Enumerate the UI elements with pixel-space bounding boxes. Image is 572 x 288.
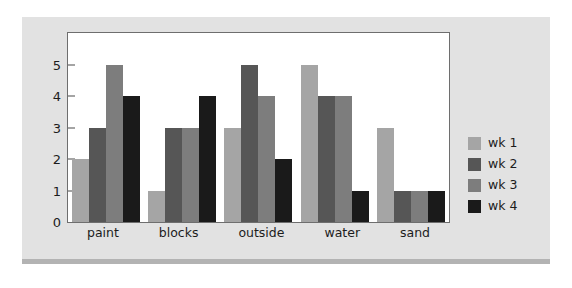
bar xyxy=(224,128,241,223)
bar xyxy=(182,128,199,223)
bar-group xyxy=(224,33,292,222)
bar-group xyxy=(301,33,369,222)
bar xyxy=(318,96,335,222)
bar xyxy=(106,65,123,223)
legend-label: wk 3 xyxy=(488,179,517,192)
bar xyxy=(89,128,106,223)
bar xyxy=(411,191,428,223)
legend-swatch-icon xyxy=(468,137,481,150)
bar-group xyxy=(72,33,140,222)
y-axis-tick-label: 5 xyxy=(53,58,61,71)
bar xyxy=(258,96,275,222)
legend-item: wk 2 xyxy=(468,158,517,171)
chart-panel: 012345 paintblocksoutsidewatersand wk 1w… xyxy=(22,17,550,259)
bar xyxy=(199,96,216,222)
legend-label: wk 1 xyxy=(488,137,517,150)
y-axis-tick-label: 0 xyxy=(53,216,61,229)
bar xyxy=(394,191,411,223)
x-axis-label: blocks xyxy=(159,225,199,240)
x-axis-label: paint xyxy=(87,225,119,240)
chart-figure: 012345 paintblocksoutsidewatersand wk 1w… xyxy=(0,0,572,288)
x-axis-label: outside xyxy=(238,225,284,240)
bar xyxy=(165,128,182,223)
bar xyxy=(148,191,165,223)
bar-group xyxy=(148,33,216,222)
y-axis-tick-label: 3 xyxy=(53,121,61,134)
bar-group xyxy=(377,33,445,222)
bar xyxy=(352,191,369,223)
legend-swatch-icon xyxy=(468,179,481,192)
x-axis-label: water xyxy=(324,225,360,240)
panel-base-strip xyxy=(22,259,550,264)
legend-item: wk 3 xyxy=(468,179,517,192)
legend-swatch-icon xyxy=(468,158,481,171)
legend-item: wk 4 xyxy=(468,200,517,213)
bar xyxy=(335,96,352,222)
bar xyxy=(275,159,292,222)
chart-legend: wk 1wk 2wk 3wk 4 xyxy=(468,137,517,213)
bar xyxy=(301,65,318,223)
legend-item: wk 1 xyxy=(468,137,517,150)
legend-label: wk 4 xyxy=(488,200,517,213)
bar-groups xyxy=(68,33,449,222)
bar xyxy=(241,65,258,223)
y-axis-tick-label: 1 xyxy=(53,184,61,197)
bar xyxy=(428,191,445,223)
y-axis-tick-label: 2 xyxy=(53,153,61,166)
x-axis-category-labels: paintblocksoutsidewatersand xyxy=(67,225,450,247)
bar xyxy=(72,159,89,222)
legend-swatch-icon xyxy=(468,200,481,213)
legend-label: wk 2 xyxy=(488,158,517,171)
bar xyxy=(377,128,394,223)
x-axis-label: sand xyxy=(400,225,430,240)
y-axis-tick-label: 4 xyxy=(53,90,61,103)
plot-area: 012345 xyxy=(67,32,450,223)
bar xyxy=(123,96,140,222)
